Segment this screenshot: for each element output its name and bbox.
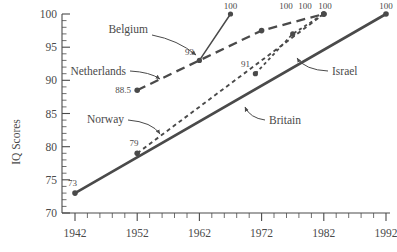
point-label-britain-end: 100 <box>379 1 393 11</box>
y-tick-label-85: 85 <box>46 108 58 120</box>
iq-scores-line-chart: 100 95 90 85 80 75 70 IQ Scores 1942 19 <box>0 0 397 252</box>
x-tick-label-1972: 1972 <box>250 227 273 239</box>
point-label-netherlands-end: 100 <box>298 1 312 11</box>
annotation-belgium: Belgium <box>108 23 196 55</box>
point-label-israel-end: 100 <box>279 1 293 11</box>
annotation-britain: Britain <box>245 107 301 126</box>
point-label-norway-end: 100 <box>318 1 332 11</box>
y-tick-label-75: 75 <box>46 174 58 186</box>
series-belgium <box>197 11 233 63</box>
series-label-netherlands: Netherlands <box>70 65 126 77</box>
x-tick-label-1942: 1942 <box>64 227 87 239</box>
x-axis <box>62 213 390 221</box>
x-tick-label-1952: 1952 <box>126 227 149 239</box>
series-israel <box>253 11 327 76</box>
point-label-norway-start: 79 <box>130 138 140 148</box>
y-axis-title: IQ Scores <box>10 119 22 165</box>
x-tick-label-1992: 1992 <box>375 227 397 239</box>
y-tick-label-95: 95 <box>46 41 58 53</box>
point-label-britain-start: 73 <box>68 178 78 188</box>
series-netherlands <box>134 11 326 93</box>
y-tick-label-100: 100 <box>40 8 58 20</box>
point-label-netherlands-start: 88.5 <box>115 85 131 95</box>
y-tick-label-70: 70 <box>46 207 58 219</box>
series-label-israel: Israel <box>332 65 358 77</box>
point-label-israel-start: 91 <box>241 59 250 69</box>
annotation-norway: Norway <box>87 113 160 134</box>
series-norway <box>134 11 326 156</box>
x-tick-label-1982: 1982 <box>312 227 335 239</box>
series-britain <box>72 11 389 196</box>
point-label-belgium-end: 100 <box>224 1 238 11</box>
y-tick-label-90: 90 <box>46 74 58 86</box>
series-label-belgium: Belgium <box>108 23 148 36</box>
x-tick-label-1962: 1962 <box>188 227 211 239</box>
series-label-norway: Norway <box>87 113 124 126</box>
annotation-netherlands: Netherlands <box>70 65 160 79</box>
y-tick-label-80: 80 <box>46 141 58 153</box>
chart-figure: 100 95 90 85 80 75 70 IQ Scores 1942 19 <box>0 0 397 252</box>
series-label-britain: Britain <box>269 114 301 126</box>
